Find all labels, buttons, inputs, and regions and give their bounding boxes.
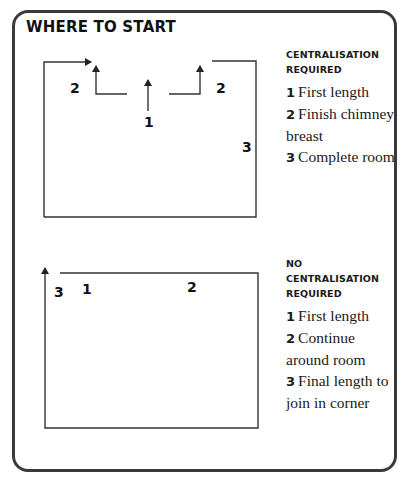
label-start: 1 [82, 281, 92, 297]
room-walls-arrow [45, 268, 258, 428]
legend-item: 3Final length to join in corner [286, 370, 396, 413]
legend-item: 3Complete room [286, 146, 396, 168]
right-step-arrow [169, 66, 200, 94]
legend-centralisation: CENTRALISATION REQUIRED 1First length 2F… [286, 47, 396, 168]
legend-heading: NO CENTRALISATION REQUIRED [286, 256, 396, 301]
label-center: 1 [144, 114, 154, 130]
left-step-arrow [96, 66, 127, 94]
legend-item: 1First length [286, 305, 396, 327]
legend-heading: CENTRALISATION REQUIRED [286, 47, 396, 77]
legend-item: 2Finish chimney breast [286, 103, 396, 146]
label-top: 2 [187, 279, 197, 295]
no-centralisation-room-plan [45, 268, 258, 428]
legend-item: 2Continue around room [286, 327, 396, 370]
label-right-wall: 3 [242, 139, 252, 155]
label-corner: 3 [54, 284, 64, 300]
first-run-arrow [44, 62, 91, 217]
label-right-step: 2 [216, 80, 226, 96]
legend-item: 1First length [286, 81, 396, 103]
legend-no-centralisation: NO CENTRALISATION REQUIRED 1First length… [286, 256, 396, 413]
label-left-step: 2 [70, 80, 80, 96]
